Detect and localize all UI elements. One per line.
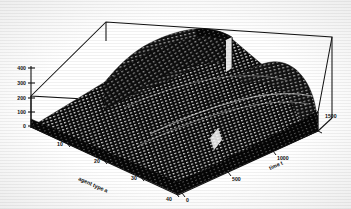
y-tick-1000 bbox=[273, 151, 276, 155]
x-tick-label-10: 10 bbox=[57, 141, 63, 147]
y-tick-500 bbox=[228, 172, 231, 176]
x-tick-label-30: 30 bbox=[131, 175, 137, 181]
x-axis-title: agent type a bbox=[78, 175, 110, 194]
y-tick-label-500: 500 bbox=[232, 176, 241, 182]
z-tick-label-100: 100 bbox=[17, 109, 26, 115]
y-tick-label-1500: 1500 bbox=[325, 113, 337, 119]
y-tick-1500 bbox=[318, 131, 322, 133]
x-tick-label-20: 20 bbox=[94, 158, 100, 164]
y-tick-0 bbox=[182, 193, 185, 197]
z-tick-label-400: 400 bbox=[17, 65, 26, 71]
x-tick-label-40: 40 bbox=[166, 196, 172, 202]
z-tick-label-0: 0 bbox=[23, 123, 26, 129]
z-tick-label-300: 300 bbox=[17, 80, 26, 86]
y-tick-label-0: 0 bbox=[186, 197, 189, 203]
plot-canvas: 400 300 200 100 0 10 20 30 40 agent type… bbox=[0, 0, 351, 209]
surface-ridge-cut bbox=[226, 37, 232, 72]
z-tick-label-200: 200 bbox=[17, 95, 26, 101]
surface-plot-figure: 400 300 200 100 0 10 20 30 40 agent type… bbox=[0, 0, 351, 209]
y-axis-title: time t bbox=[268, 160, 284, 171]
